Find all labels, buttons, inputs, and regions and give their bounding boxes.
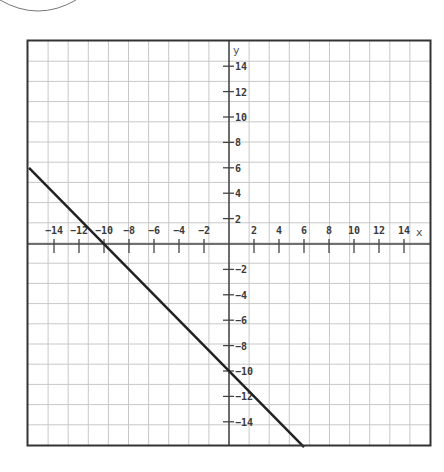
y-axis-label: y [233,44,240,57]
x-tick-label: 4 [276,225,282,236]
coordinate-plane-chart: −14−12−10−8−6−4−22468101214−14−12−10−8−6… [0,0,444,472]
y-tick-label: 14 [235,61,247,72]
decorative-arc [0,0,76,11]
y-tick-label: −8 [235,341,247,352]
x-tick-label: 2 [251,225,257,236]
y-tick-label: −6 [235,315,247,326]
y-tick-label: 10 [235,112,247,123]
y-tick-label: −10 [235,366,253,377]
y-tick-label: 12 [235,87,247,98]
y-tick-label: −2 [235,264,247,275]
y-tick-label: 8 [235,137,241,148]
y-tick-label: 6 [235,163,241,174]
x-tick-label: −2 [198,225,210,236]
x-tick-label: 8 [326,225,332,236]
plot-series [29,168,304,447]
x-tick-label: −4 [173,225,185,236]
line-series [29,168,304,447]
y-tick-label: 4 [235,188,241,199]
x-tick-label: −10 [95,225,113,236]
x-tick-label: −14 [45,225,63,236]
x-tick-label: −8 [123,225,135,236]
x-tick-label: 14 [398,225,410,236]
x-axis-label: x [416,226,423,239]
x-tick-label: −6 [148,225,160,236]
y-tick-label: −14 [235,417,253,428]
x-tick-label: 6 [301,225,307,236]
y-tick-label: 2 [235,214,241,225]
y-tick-label: −4 [235,290,247,301]
x-tick-label: 12 [373,225,385,236]
x-tick-label: 10 [348,225,360,236]
